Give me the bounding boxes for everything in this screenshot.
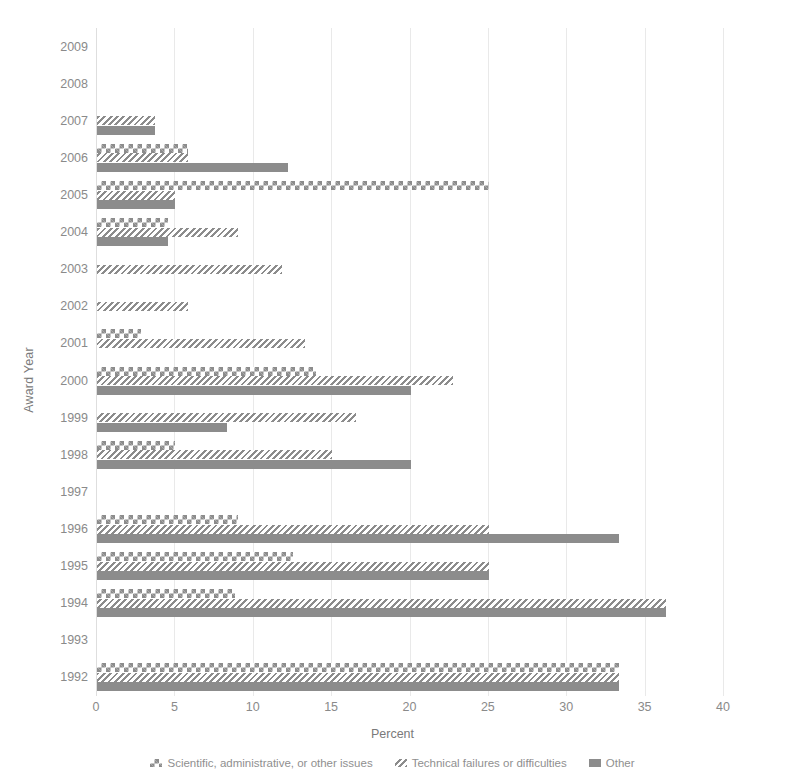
x-tick-label: 25 bbox=[481, 700, 495, 714]
y-tick-label: 1992 bbox=[28, 670, 88, 684]
y-tick-label: 1995 bbox=[28, 559, 88, 573]
y-tick-label: 1999 bbox=[28, 411, 88, 425]
y-tick-label: 2008 bbox=[28, 77, 88, 91]
legend-item[interactable]: Technical failures or difficulties bbox=[395, 757, 567, 769]
legend-label: Technical failures or difficulties bbox=[412, 757, 567, 769]
gridline bbox=[488, 28, 489, 696]
y-tick-label: 2003 bbox=[28, 262, 88, 276]
x-tick-label: 20 bbox=[403, 700, 417, 714]
y-tick-label: 2002 bbox=[28, 299, 88, 313]
bar-2006-series-3 bbox=[97, 163, 288, 172]
legend-label: Scientific, administrative, or other iss… bbox=[167, 757, 372, 769]
bar-2001-series-1 bbox=[97, 329, 141, 338]
y-tick-label: 2007 bbox=[28, 114, 88, 128]
bar-1998-series-2 bbox=[97, 450, 332, 459]
bar-2004-series-3 bbox=[97, 237, 168, 246]
y-tick-label: 2006 bbox=[28, 151, 88, 165]
x-tick-label: 10 bbox=[246, 700, 260, 714]
bar-1998-series-1 bbox=[97, 441, 175, 450]
bar-2000-series-1 bbox=[97, 367, 316, 376]
gridline bbox=[410, 28, 411, 696]
bar-1995-series-3 bbox=[97, 571, 489, 580]
y-tick-label: 2001 bbox=[28, 336, 88, 350]
x-tick-label: 0 bbox=[93, 700, 100, 714]
bar-2005-series-1 bbox=[97, 181, 489, 190]
gridline bbox=[253, 28, 254, 696]
legend-swatch-icon bbox=[150, 759, 162, 767]
bar-1996-series-3 bbox=[97, 534, 619, 543]
bar-chart: Award Year 0510152025303540 200920082007… bbox=[0, 0, 785, 772]
bar-2005-series-3 bbox=[97, 200, 175, 209]
bar-1992-series-2 bbox=[97, 673, 619, 682]
legend-item[interactable]: Scientific, administrative, or other iss… bbox=[150, 757, 372, 769]
bar-2001-series-2 bbox=[97, 339, 305, 348]
legend-swatch-icon bbox=[395, 759, 407, 767]
x-tick-label: 15 bbox=[324, 700, 338, 714]
bar-1994-series-2 bbox=[97, 599, 666, 608]
y-tick-label: 1994 bbox=[28, 596, 88, 610]
bar-1994-series-1 bbox=[97, 589, 235, 598]
bar-1996-series-2 bbox=[97, 525, 489, 534]
bar-1995-series-1 bbox=[97, 552, 293, 561]
bar-2003-series-2 bbox=[97, 265, 282, 274]
bar-1996-series-1 bbox=[97, 515, 238, 524]
bar-2005-series-2 bbox=[97, 191, 175, 200]
bar-2004-series-1 bbox=[97, 218, 168, 227]
y-tick-label: 1996 bbox=[28, 522, 88, 536]
gridline bbox=[566, 28, 567, 696]
x-tick-label: 35 bbox=[638, 700, 652, 714]
y-tick-label: 1997 bbox=[28, 485, 88, 499]
y-tick-label: 2009 bbox=[28, 40, 88, 54]
x-axis-title: Percent bbox=[0, 727, 785, 741]
bar-1995-series-2 bbox=[97, 562, 489, 571]
bar-2002-series-2 bbox=[97, 302, 188, 311]
y-tick-label: 2005 bbox=[28, 188, 88, 202]
legend-label: Other bbox=[606, 757, 635, 769]
chart-legend: Scientific, administrative, or other iss… bbox=[0, 757, 785, 772]
legend-item[interactable]: Other bbox=[589, 757, 635, 769]
bar-2006-series-1 bbox=[97, 144, 188, 153]
bar-1998-series-3 bbox=[97, 460, 411, 469]
bar-1994-series-3 bbox=[97, 608, 666, 617]
bar-2007-series-2 bbox=[97, 116, 155, 125]
bar-1992-series-3 bbox=[97, 682, 619, 691]
y-tick-label: 2004 bbox=[28, 225, 88, 239]
y-tick-label: 1998 bbox=[28, 448, 88, 462]
legend-swatch-icon bbox=[589, 759, 601, 767]
gridline bbox=[645, 28, 646, 696]
y-tick-label: 1993 bbox=[28, 633, 88, 647]
x-tick-label: 40 bbox=[716, 700, 730, 714]
x-tick-label: 5 bbox=[171, 700, 178, 714]
bar-2006-series-2 bbox=[97, 153, 188, 162]
bar-2000-series-3 bbox=[97, 386, 411, 395]
y-tick-label: 2000 bbox=[28, 374, 88, 388]
plot-area bbox=[96, 28, 723, 696]
bar-2000-series-2 bbox=[97, 376, 453, 385]
bar-1992-series-1 bbox=[97, 663, 619, 672]
bar-1999-series-3 bbox=[97, 423, 227, 432]
x-tick-label: 30 bbox=[559, 700, 573, 714]
gridline bbox=[331, 28, 332, 696]
gridline bbox=[723, 28, 724, 696]
bar-1999-series-2 bbox=[97, 413, 356, 422]
bar-2007-series-3 bbox=[97, 126, 155, 135]
bar-2004-series-2 bbox=[97, 228, 238, 237]
